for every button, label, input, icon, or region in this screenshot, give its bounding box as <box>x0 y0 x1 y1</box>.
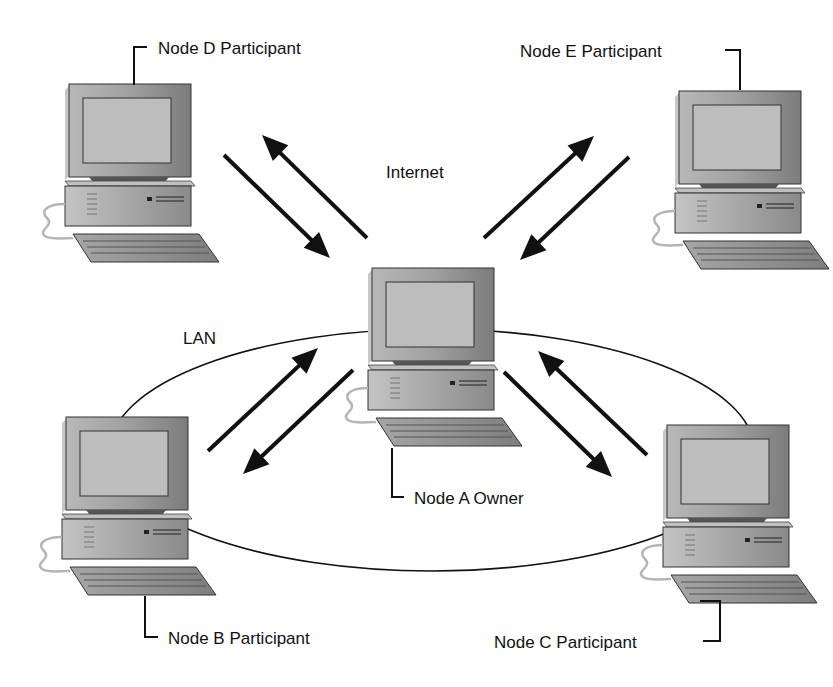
node-a-callout: Node A Owner <box>392 448 524 508</box>
arrow-a-to-b <box>243 370 353 474</box>
monitor-side <box>368 270 372 364</box>
screen <box>80 431 168 496</box>
arrow-shaft <box>484 152 576 238</box>
case-top <box>62 514 192 519</box>
monitor-side <box>62 419 66 513</box>
lan-label: LAN <box>183 329 216 348</box>
case-top <box>368 365 498 370</box>
computer-node-b <box>40 417 216 595</box>
monitor-side <box>65 86 69 180</box>
cpu-case-icon <box>62 519 188 559</box>
arrow-d-to-a <box>224 155 330 258</box>
node-e-leader-line <box>725 50 740 90</box>
node-e-label: Node E Participant <box>520 42 662 61</box>
arrow-shaft <box>279 152 367 238</box>
node-b-leader-line <box>145 596 158 637</box>
arrow-c-to-a <box>538 351 647 455</box>
arrow-a-to-c <box>504 372 612 477</box>
computers-group <box>40 84 829 603</box>
node-d-leader-line <box>134 47 147 85</box>
computer-node-a <box>346 268 522 446</box>
arrow-shaft <box>555 368 647 455</box>
computer-node-e <box>653 91 829 269</box>
screen <box>693 105 781 170</box>
node-d-label: Node D Participant <box>158 39 301 58</box>
power-light <box>144 530 149 534</box>
node-a-leader-line <box>392 448 404 497</box>
arrow-shaft <box>260 370 353 458</box>
case-top <box>675 188 805 193</box>
cpu-case-icon <box>663 527 789 567</box>
node-c-label: Node C Participant <box>494 633 637 652</box>
node-a-label: Node A Owner <box>414 489 524 508</box>
cpu-case-icon <box>675 193 801 233</box>
monitor-side <box>663 427 667 521</box>
computer-node-c <box>641 425 817 603</box>
cpu-case-icon <box>65 186 191 226</box>
case-top <box>663 522 793 527</box>
keyboard-icon <box>683 241 829 269</box>
arrow-shaft <box>537 157 629 244</box>
arrow-a-to-e <box>484 136 594 238</box>
cpu-case-icon <box>368 370 494 410</box>
arrow-a-to-d <box>262 135 367 238</box>
monitor-side <box>675 93 679 187</box>
keyboard-icon <box>376 418 522 446</box>
diagram-canvas: Internet LAN Node D Participant Node E P… <box>0 0 833 687</box>
node-c-callout: Node C Participant <box>494 601 720 652</box>
keyboard-icon <box>73 234 219 262</box>
power-light <box>450 381 455 385</box>
case-top <box>65 181 195 186</box>
network-diagram: Internet LAN Node D Participant Node E P… <box>0 0 833 687</box>
node-e-callout: Node E Participant <box>520 42 740 90</box>
power-light <box>745 538 750 542</box>
power-light <box>147 197 152 201</box>
arrow-b-to-a <box>208 348 318 451</box>
keyboard-icon <box>70 567 216 595</box>
arrow-shaft <box>208 364 300 451</box>
node-b-callout: Node B Participant <box>145 596 310 648</box>
arrow-e-to-a <box>520 157 629 260</box>
node-d-callout: Node D Participant <box>134 39 301 85</box>
arrow-shaft <box>504 372 595 460</box>
node-b-label: Node B Participant <box>168 629 310 648</box>
power-light <box>757 204 762 208</box>
screen <box>681 439 769 504</box>
keyboard-icon <box>671 575 817 603</box>
arrow-shaft <box>224 155 313 241</box>
computer-node-d <box>43 84 219 262</box>
screen <box>83 98 171 163</box>
internet-label: Internet <box>386 163 444 182</box>
screen <box>386 282 474 347</box>
node-c-leader-line <box>700 601 720 641</box>
